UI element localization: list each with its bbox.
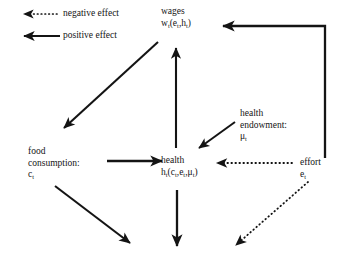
arrow-layer	[0, 0, 348, 269]
edge-food-downward	[55, 186, 130, 243]
node-wages-function: wt(et,ht)	[161, 18, 191, 30]
node-health: health ht(ct,et,μt)	[161, 155, 198, 178]
node-endowment-function: μt	[240, 131, 287, 143]
legend-positive-label: positive effect	[63, 30, 117, 41]
node-health-args-sub2: t	[183, 171, 185, 178]
node-endowment-symbol-sub: t	[245, 135, 247, 142]
node-wages-args-sub1: t	[177, 22, 179, 29]
node-health-args-sub1: t	[175, 171, 177, 178]
node-health-args-close: )	[194, 167, 197, 177]
node-food-symbol-sub: t	[32, 173, 34, 180]
node-food-title-line1: food	[28, 146, 80, 158]
node-effort: effort et	[300, 157, 321, 180]
legend-negative-label: negative effect	[63, 8, 119, 19]
node-wages-args-close: )	[188, 18, 191, 28]
node-health-args-mid2: ,μ	[185, 167, 192, 177]
node-health-args-open: (c	[168, 167, 175, 177]
node-effort-symbol-sub: t	[304, 173, 306, 180]
causal-diagram: negative effect positive effect wages wt…	[0, 0, 348, 269]
node-endowment-title-line1: health	[240, 108, 287, 120]
node-wages: wages wt(et,ht)	[161, 6, 191, 29]
node-health-title: health	[161, 155, 198, 167]
edge-wages-to-food	[64, 42, 158, 128]
node-food-function: ct	[28, 169, 80, 181]
node-health-endowment: health endowment: μt	[240, 108, 287, 143]
node-wages-title: wages	[161, 6, 191, 18]
node-wages-args-mid: ,h	[179, 18, 186, 28]
node-wages-symbol: w	[161, 18, 168, 28]
node-food-consumption: food consumption: ct	[28, 146, 80, 181]
node-health-function: ht(ct,et,μt)	[161, 167, 198, 179]
node-endowment-title-line2: endowment:	[240, 120, 287, 132]
edge-endowment-to-health	[199, 122, 235, 148]
node-effort-function: et	[300, 169, 321, 181]
edge-effort-downward	[236, 182, 308, 245]
node-wages-args-sub2: t	[186, 22, 188, 29]
node-wages-symbol-sub: t	[168, 22, 170, 29]
node-wages-args-open: (e	[170, 18, 177, 28]
node-effort-title: effort	[300, 157, 321, 169]
node-health-symbol-sub: t	[166, 171, 168, 178]
node-food-title-line2: consumption:	[28, 158, 80, 170]
